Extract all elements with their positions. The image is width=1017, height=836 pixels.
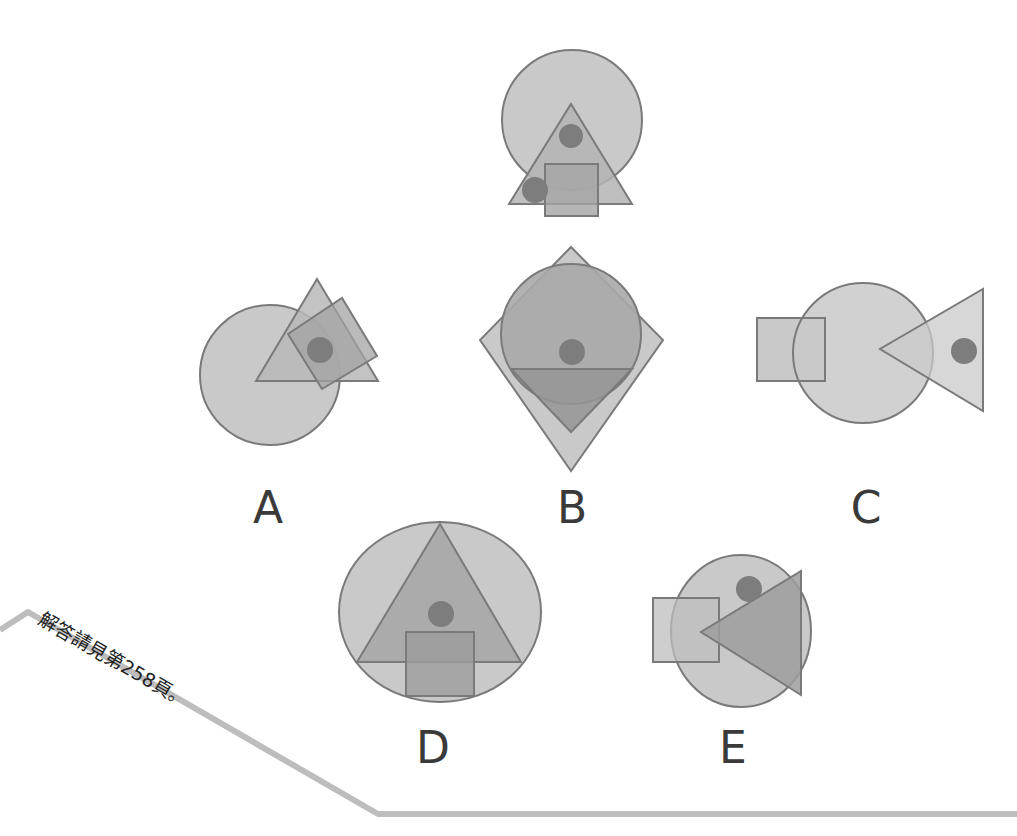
option-b-label[interactable]: B — [557, 486, 587, 530]
puzzle-canvas — [0, 0, 1017, 836]
option-e-figure[interactable] — [653, 555, 811, 707]
ref-dot-left — [522, 177, 548, 203]
c-dot — [951, 338, 977, 364]
reference-figure — [502, 50, 642, 216]
option-d-label[interactable]: D — [416, 726, 450, 770]
option-c-figure[interactable] — [757, 283, 983, 423]
a-dot — [307, 337, 333, 363]
ref-dot-top — [559, 124, 583, 148]
d-square — [406, 632, 474, 696]
option-a-figure[interactable] — [200, 279, 378, 445]
option-e-label[interactable]: E — [719, 726, 747, 770]
option-c-label[interactable]: C — [851, 486, 882, 530]
b-dot — [559, 339, 585, 365]
ref-square — [545, 164, 598, 216]
option-d-figure[interactable] — [339, 522, 541, 702]
d-dot — [428, 601, 454, 627]
option-b-figure[interactable] — [480, 247, 663, 471]
option-a-label[interactable]: A — [253, 486, 283, 530]
